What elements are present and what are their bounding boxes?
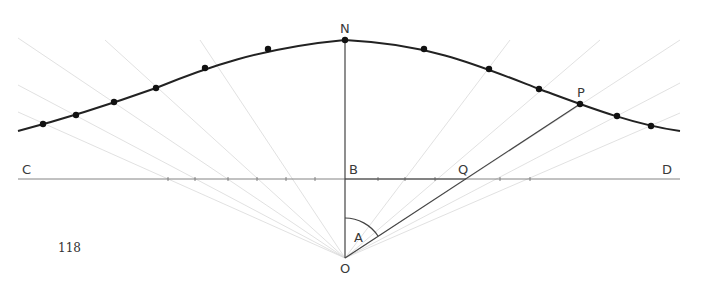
- label-p: P: [577, 85, 585, 100]
- curve-dot: [202, 65, 208, 71]
- line-op: [345, 104, 580, 258]
- label-c: C: [22, 162, 31, 177]
- curve-dot: [486, 66, 492, 72]
- page-number: 118: [58, 241, 81, 255]
- construction-rays: [18, 38, 680, 258]
- curve-dot: [111, 99, 117, 105]
- curve-dot: [153, 85, 159, 91]
- curve-dot: [614, 113, 620, 119]
- curve-dot: [265, 46, 271, 52]
- curve-dot: [73, 112, 79, 118]
- curve-dot: [648, 123, 654, 129]
- label-a: A: [354, 230, 363, 245]
- curve-dot: [342, 37, 348, 43]
- label-b: B: [349, 162, 358, 177]
- label-o: O: [340, 261, 350, 276]
- curve-dot: [577, 101, 583, 107]
- label-d: D: [662, 162, 672, 177]
- diagram-figure: N P C B Q D A O 118: [0, 0, 703, 291]
- label-q: Q: [458, 162, 468, 177]
- curve-dot: [536, 86, 542, 92]
- curve-dot: [421, 46, 427, 52]
- curve-dot: [40, 121, 46, 127]
- label-n: N: [340, 21, 350, 36]
